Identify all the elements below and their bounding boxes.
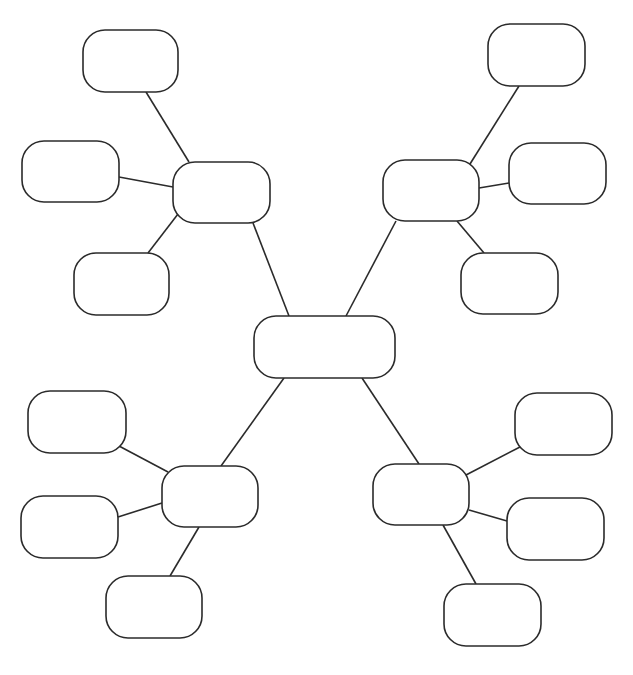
- node-shape[interactable]: [444, 584, 541, 646]
- branch-box-tl[interactable]: [173, 162, 270, 223]
- connector-tr-tr3: [457, 221, 484, 253]
- node-shape[interactable]: [488, 24, 585, 86]
- connector-br-br2: [469, 510, 507, 521]
- leaf-box-tr1[interactable]: [488, 24, 585, 86]
- leaf-box-bl1[interactable]: [28, 391, 126, 453]
- node-shape[interactable]: [162, 466, 258, 527]
- node-shape[interactable]: [515, 393, 612, 455]
- node-shape[interactable]: [106, 576, 202, 638]
- leaf-box-tl3[interactable]: [74, 253, 169, 315]
- connector-br-br3: [443, 525, 476, 584]
- connector-tl-tl1: [146, 92, 189, 162]
- connector-center-br: [362, 378, 419, 464]
- branch-box-br[interactable]: [373, 464, 469, 525]
- connector-tr-tr1: [470, 86, 519, 164]
- leaf-box-br2[interactable]: [507, 498, 604, 560]
- node-shape[interactable]: [22, 141, 119, 202]
- leaf-box-tl1[interactable]: [83, 30, 178, 92]
- central-topic-box[interactable]: [254, 316, 395, 378]
- connector-tl-tl2: [119, 177, 173, 187]
- connector-bl-bl1: [119, 446, 168, 472]
- leaf-box-bl2[interactable]: [21, 496, 118, 558]
- node-shape[interactable]: [509, 143, 606, 204]
- connector-center-tl: [253, 223, 289, 316]
- leaf-box-tl2[interactable]: [22, 141, 119, 202]
- leaf-box-br3[interactable]: [444, 584, 541, 646]
- connector-center-bl: [221, 378, 284, 466]
- node-shape[interactable]: [461, 253, 558, 314]
- node-shape[interactable]: [173, 162, 270, 223]
- node-shape[interactable]: [373, 464, 469, 525]
- connector-bl-bl2: [118, 503, 162, 517]
- node-shape[interactable]: [507, 498, 604, 560]
- branch-box-tr[interactable]: [383, 160, 479, 221]
- node-shape[interactable]: [21, 496, 118, 558]
- leaf-box-tr3[interactable]: [461, 253, 558, 314]
- connector-br-br1: [466, 447, 520, 475]
- connector-bl-bl3: [170, 527, 199, 576]
- branch-box-bl[interactable]: [162, 466, 258, 527]
- leaf-box-tr2[interactable]: [509, 143, 606, 204]
- connector-center-tr: [346, 221, 396, 316]
- leaf-box-bl3[interactable]: [106, 576, 202, 638]
- node-shape[interactable]: [74, 253, 169, 315]
- node-shape[interactable]: [254, 316, 395, 378]
- connector-tl-tl3: [148, 214, 178, 253]
- leaf-box-br1[interactable]: [515, 393, 612, 455]
- node-shape[interactable]: [83, 30, 178, 92]
- connector-tr-tr2: [479, 183, 509, 188]
- node-shape[interactable]: [383, 160, 479, 221]
- mind-map-canvas: [0, 0, 633, 675]
- node-layer: [21, 24, 612, 646]
- node-shape[interactable]: [28, 391, 126, 453]
